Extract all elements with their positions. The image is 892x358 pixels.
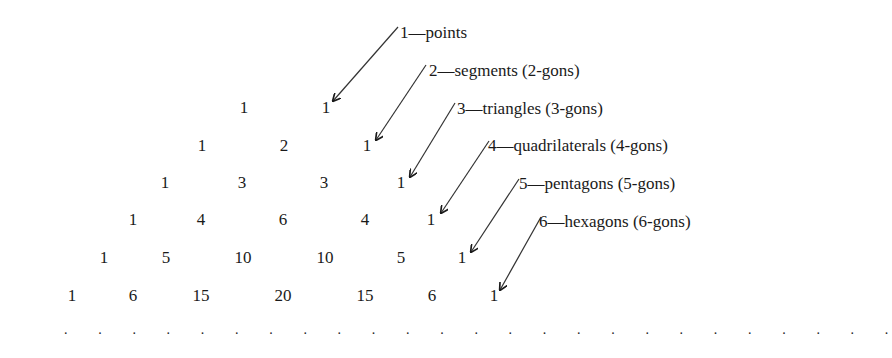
arrow-hexagons xyxy=(500,217,541,290)
cell-r6-c7: 1 xyxy=(490,287,499,304)
cell-r3-c1: 1 xyxy=(161,174,170,191)
cell-r1-c2: 1 xyxy=(322,99,331,116)
cell-r5-c6: 1 xyxy=(458,249,467,266)
arrow-segments xyxy=(376,65,426,140)
cell-r5-c1: 1 xyxy=(100,249,109,266)
cell-r6-c4: 20 xyxy=(275,287,292,304)
cell-r6-c1: 1 xyxy=(68,287,77,304)
label-pentagons: 5—pentagons (5-gons) xyxy=(519,175,675,192)
cell-r6-c3: 15 xyxy=(193,287,210,304)
cell-r3-c4: 1 xyxy=(397,174,406,191)
cell-r4-c5: 1 xyxy=(427,211,436,228)
cell-r3-c3: 3 xyxy=(320,174,329,191)
cell-r5-c2: 5 xyxy=(162,249,171,266)
cell-r6-c2: 6 xyxy=(129,287,138,304)
cell-r5-c5: 5 xyxy=(397,249,406,266)
cell-r5-c3: 10 xyxy=(235,249,252,266)
arrow-points xyxy=(333,27,398,101)
cell-r2-c1: 1 xyxy=(198,137,207,154)
cell-r3-c2: 3 xyxy=(238,174,247,191)
cell-r4-c2: 4 xyxy=(197,211,206,228)
arrow-pentagons xyxy=(471,179,519,252)
label-quadrilaterals: 4—quadrilaterals (4-gons) xyxy=(488,137,668,154)
label-triangles: 3—triangles (3-gons) xyxy=(457,100,603,117)
label-segments: 2—segments (2-gons) xyxy=(429,62,580,79)
cell-r4-c3: 6 xyxy=(279,211,288,228)
cell-r4-c4: 4 xyxy=(361,211,370,228)
continuation-dots: . . . . . . . . . . . . . . . . . . . . … xyxy=(64,322,892,338)
cell-r5-c4: 10 xyxy=(317,249,334,266)
cell-r2-c3: 1 xyxy=(363,137,372,154)
cell-r2-c2: 2 xyxy=(280,137,289,154)
cell-r6-c5: 15 xyxy=(357,287,374,304)
label-hexagons: 6—hexagons (6-gons) xyxy=(539,213,691,230)
arrow-triangles xyxy=(410,103,455,177)
cell-r1-c1: 1 xyxy=(240,99,249,116)
cell-r4-c1: 1 xyxy=(129,211,138,228)
arrow-quadrilaterals xyxy=(441,141,489,213)
label-points: 1—points xyxy=(400,24,467,41)
cell-r6-c6: 6 xyxy=(428,287,437,304)
